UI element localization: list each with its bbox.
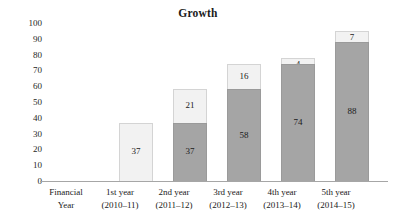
bar-4th-year[interactable]: 4 74 [281,58,315,181]
bar-1st-year[interactable]: 37 [119,123,153,181]
y-tick-label: 30 [2,130,42,139]
y-tick-label: 40 [2,114,42,123]
bar-segment-dark[interactable]: 88 [335,42,369,181]
bar-segment-label: 37 [174,147,206,156]
x-category-5th-year: 5th year (2014–15) [304,186,368,212]
bar-5th-year[interactable]: 7 88 [335,31,369,181]
chart-title: Growth [0,7,396,19]
y-tick-label: 60 [2,82,42,91]
bar-segment-label: 21 [174,101,206,110]
x-category-line2: (2014–15) [304,199,368,212]
bar-segment-light[interactable]: 37 [119,123,153,181]
y-tick-label: 20 [2,145,42,154]
y-tick-label: 90 [2,35,42,44]
bar-segment-light[interactable]: 21 [173,89,207,122]
bar-segment-label: 16 [228,72,260,81]
x-axis-labels: Financial Year 1st year (2010–11) 2nd ye… [40,186,388,222]
y-tick-label: 100 [2,19,42,28]
bar-segment-dark[interactable]: 58 [227,89,261,181]
growth-bar-chart: Growth 100 90 80 70 60 50 40 30 20 10 0 … [0,0,396,222]
bar-2nd-year[interactable]: 21 37 [173,89,207,181]
bar-segment-light[interactable]: 7 [335,31,369,42]
plot-area: 37 21 37 16 58 4 74 [46,23,386,181]
x-axis-line [40,181,388,182]
bar-3rd-year[interactable]: 16 58 [227,64,261,181]
x-category-line1: 5th year [304,186,368,199]
bar-segment-label: 37 [120,147,152,156]
bar-segment-dark[interactable]: 74 [281,64,315,181]
bar-segment-label: 58 [228,131,260,140]
bar-segment-dark[interactable]: 37 [173,123,207,181]
bar-segment-label: 74 [282,118,314,127]
y-tick-label: 70 [2,66,42,75]
y-tick-label: 0 [2,177,42,186]
y-tick-label: 10 [2,161,42,170]
y-tick-label: 80 [2,51,42,60]
bar-segment-label: 88 [336,107,368,116]
bar-segment-label: 7 [336,33,368,42]
bar-segment-light[interactable]: 16 [227,64,261,89]
y-tick-label: 50 [2,98,42,107]
